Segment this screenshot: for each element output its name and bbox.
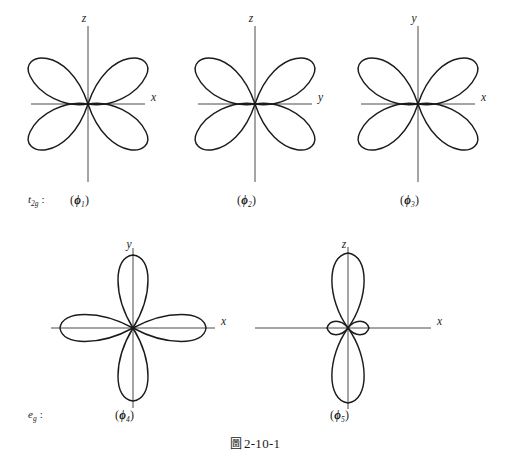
lobe-upper-left	[358, 58, 418, 105]
orbital-diagram-phi4: y x	[43, 243, 233, 413]
paren-close: )	[415, 193, 419, 207]
set-label-subscript: 2g	[31, 199, 39, 208]
plot-label-phi5: (ϕ5)	[330, 408, 349, 424]
orbital-diagram-phi3: y x	[338, 14, 498, 189]
lobe-upper-left	[28, 58, 88, 105]
orbital-svg-phi5: z x	[253, 243, 453, 413]
axis-label-horizontal: x	[220, 315, 227, 327]
lobe-lower-left	[358, 103, 418, 150]
orbital-svg-phi2: z y	[175, 14, 335, 189]
axis-label-vertical: z	[341, 238, 347, 250]
figure-caption: 圖2-10-1	[0, 434, 510, 452]
plot-label-phi1: (ϕ1)	[70, 193, 89, 209]
axis-label-horizontal: x	[150, 91, 157, 103]
axis-label-horizontal: y	[317, 91, 324, 104]
plot-label-phi4: (ϕ4)	[115, 408, 134, 424]
figure-caption-cjk: 圖	[230, 437, 244, 451]
lobe-lower-left	[195, 103, 255, 150]
axis-label-vertical: z	[81, 12, 87, 24]
paren-close: )	[85, 193, 89, 207]
lobe-lower-left	[28, 103, 88, 150]
lobe-upper-right	[418, 58, 478, 105]
axis-label-vertical: y	[410, 12, 417, 25]
axis-label-horizontal: x	[480, 91, 487, 103]
orbital-diagram-phi1: z x	[8, 14, 168, 189]
lobe-upper-left	[195, 58, 255, 105]
figure-caption-number: 2-10-1	[244, 436, 280, 451]
orbital-diagram-phi2: z y	[175, 14, 335, 189]
set-label-eg: eg:	[28, 408, 43, 423]
lobe-lower-right	[88, 103, 148, 150]
paren-close: )	[345, 408, 349, 422]
orbital-diagram-phi5: z x	[253, 243, 453, 413]
axis-label-vertical: z	[248, 12, 254, 24]
lobe-lower-right	[418, 103, 478, 150]
plot-label-phi2: (ϕ2)	[237, 193, 256, 209]
set-label-colon: :	[37, 408, 43, 420]
figure-root: z x z y y x t2g:	[0, 0, 510, 464]
axis-label-horizontal: x	[436, 315, 443, 327]
lobe-upper-right	[255, 58, 315, 105]
orbital-svg-phi4: y x	[43, 243, 233, 413]
paren-close: )	[252, 193, 256, 207]
paren-close: )	[130, 408, 134, 422]
orbital-svg-phi3: y x	[338, 14, 498, 189]
axis-label-vertical: y	[125, 238, 132, 251]
orbital-svg-phi1: z x	[8, 14, 168, 189]
lobe-lower-right	[255, 103, 315, 150]
set-label-colon: :	[39, 193, 45, 205]
plot-label-phi3: (ϕ3)	[400, 193, 419, 209]
set-label-t2g: t2g:	[28, 193, 45, 208]
lobe-upper-right	[88, 58, 148, 105]
